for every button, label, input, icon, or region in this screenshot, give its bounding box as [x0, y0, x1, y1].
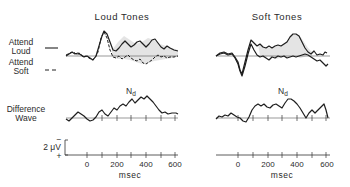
legend-attend-loud-line2: Loud [12, 46, 31, 56]
loud-nd-label: Nd [126, 86, 136, 97]
loud-tick-400: 400 [139, 160, 153, 169]
soft-tick-0: 0 [236, 160, 241, 169]
soft-tick-600: 600 [320, 160, 334, 169]
panel-title-loud: Loud Tones [95, 11, 150, 22]
legend: Attend Loud Attend Soft [9, 37, 58, 76]
loud-x-unit: msec [119, 170, 142, 180]
erp-figure: Loud Tones Soft Tones Attend Loud Attend… [0, 0, 350, 187]
loud-shaded-area [112, 36, 178, 64]
soft-tones-panel: Nd 0 200 400 600 msec [216, 34, 334, 180]
legend-attend-soft-line2: Soft [13, 66, 29, 76]
loud-tones-panel: Nd 0 200 400 600 msec [65, 31, 182, 180]
soft-nd-label: Nd [278, 86, 288, 97]
soft-difference-trace [216, 99, 328, 122]
panel-title-soft: Soft Tones [252, 11, 303, 22]
loud-tick-0: 0 [85, 160, 90, 169]
soft-x-unit: msec [271, 170, 294, 180]
soft-tick-400: 400 [290, 160, 304, 169]
soft-tick-200: 200 [261, 160, 275, 169]
scale-plus-label: + [57, 151, 62, 161]
amplitude-scale-bar [65, 140, 68, 155]
difference-wave-label-line2: Wave [15, 113, 37, 123]
loud-tick-600: 600 [168, 160, 182, 169]
loud-tick-200: 200 [110, 160, 124, 169]
